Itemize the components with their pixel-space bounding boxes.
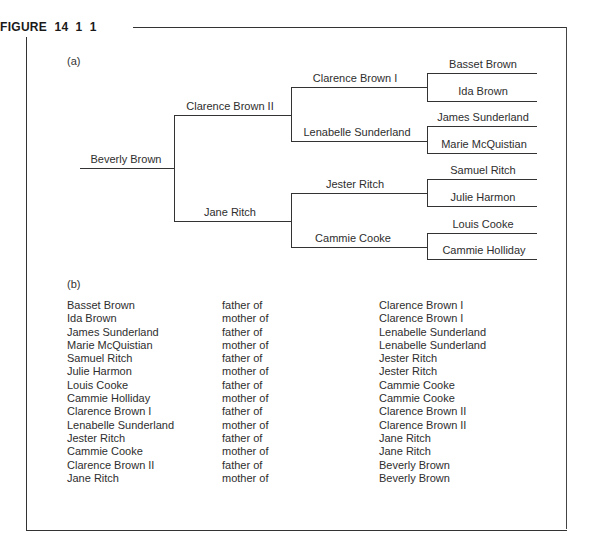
tree-node-great-grandparent: Ida Brown: [427, 85, 539, 97]
frame-border-bottom: [26, 530, 567, 531]
tree-node-great-grandparent: Cammie Holliday: [427, 244, 541, 256]
tree-line-grandparent: [291, 247, 428, 248]
tree-node-root: Beverly Brown: [80, 153, 172, 165]
relation-person: Lenabelle Sunderland: [67, 419, 174, 432]
tree-line-great-grandparent: [427, 259, 537, 260]
tree-line-root: [80, 168, 175, 169]
relation-child: Lenabelle Sunderland: [379, 326, 486, 339]
tree-line-grandparent: [291, 87, 428, 88]
relation-person: Louis Cooke: [67, 379, 128, 392]
relation-child: Beverly Brown: [379, 472, 450, 485]
relation-person: James Sunderland: [67, 326, 159, 339]
relation-person: Ida Brown: [67, 312, 117, 325]
tree-line-grandparent: [291, 141, 428, 142]
relation-child: Clarence Brown I: [379, 312, 463, 325]
tree-line-parent: [174, 115, 292, 116]
relation-type: mother of: [222, 472, 268, 485]
tree-node-great-grandparent: Basset Brown: [427, 58, 539, 70]
relation-child: Jane Ritch: [379, 445, 431, 458]
relation-type: father of: [222, 432, 262, 445]
tree-line-great-grandparent: [427, 73, 537, 74]
relation-type: mother of: [222, 365, 268, 378]
tree-line-parent: [174, 221, 292, 222]
tree-node-great-grandparent: Julie Harmon: [427, 191, 539, 203]
relation-type: father of: [222, 459, 262, 472]
frame-border-right: [566, 27, 567, 529]
tree-node-great-grandparent: Louis Cooke: [427, 218, 539, 230]
relation-type: mother of: [222, 445, 268, 458]
relation-person: Clarence Brown II: [67, 459, 154, 472]
relation-person: Cammie Holliday: [67, 392, 150, 405]
tree-node-great-grandparent: Samuel Ritch: [427, 164, 539, 176]
relation-type: mother of: [222, 339, 268, 352]
relation-type: mother of: [222, 419, 268, 432]
relation-child: Jester Ritch: [379, 365, 437, 378]
relation-person: Clarence Brown I: [67, 405, 151, 418]
relation-type: mother of: [222, 312, 268, 325]
frame-border-left: [26, 37, 27, 531]
relation-child: Clarence Brown II: [379, 405, 466, 418]
title-rule: [133, 27, 566, 28]
relation-type: father of: [222, 405, 262, 418]
tree-node-great-grandparent: James Sunderland: [422, 111, 544, 123]
relation-type: father of: [222, 299, 262, 312]
tree-node-parent: Jane Ritch: [174, 206, 286, 218]
relation-type: father of: [222, 326, 262, 339]
relation-child: Lenabelle Sunderland: [379, 339, 486, 352]
tree-node-parent: Clarence Brown II: [174, 100, 286, 112]
relation-person: Jester Ritch: [67, 432, 125, 445]
tree-line-great-grandparent: [427, 179, 537, 180]
relation-person: Samuel Ritch: [67, 352, 132, 365]
relation-type: father of: [222, 379, 262, 392]
relation-child: Jester Ritch: [379, 352, 437, 365]
tree-node-great-grandparent: Marie McQuistian: [424, 138, 544, 150]
figure-title: FIGURE 14 1 1: [0, 20, 97, 34]
relation-child: Beverly Brown: [379, 459, 450, 472]
tree-line-great-grandparent: [427, 126, 537, 127]
tree-line-great-grandparent: [427, 233, 537, 234]
tree-node-grandparent: Jester Ritch: [291, 178, 419, 190]
part-b-label: (b): [67, 278, 80, 290]
relation-child: Cammie Cooke: [379, 392, 455, 405]
tree-node-grandparent: Cammie Cooke: [291, 232, 415, 244]
relation-person: Marie McQuistian: [67, 339, 153, 352]
relation-child: Clarence Brown II: [379, 419, 466, 432]
relation-child: Jane Ritch: [379, 432, 431, 445]
relation-person: Cammie Cooke: [67, 445, 143, 458]
tree-line-great-grandparent: [427, 206, 537, 207]
tree-node-grandparent: Lenabelle Sunderland: [291, 126, 423, 138]
tree-node-grandparent: Clarence Brown I: [291, 72, 419, 84]
relation-type: father of: [222, 352, 262, 365]
relation-person: Basset Brown: [67, 299, 135, 312]
tree-line-grandparent: [291, 193, 428, 194]
relation-child: Cammie Cooke: [379, 379, 455, 392]
tree-line-great-grandparent: [427, 101, 537, 102]
relation-person: Julie Harmon: [67, 365, 132, 378]
part-a-label: (a): [67, 55, 80, 67]
relation-type: mother of: [222, 392, 268, 405]
relation-child: Clarence Brown I: [379, 299, 463, 312]
tree-line-great-grandparent: [427, 153, 537, 154]
relation-person: Jane Ritch: [67, 472, 119, 485]
